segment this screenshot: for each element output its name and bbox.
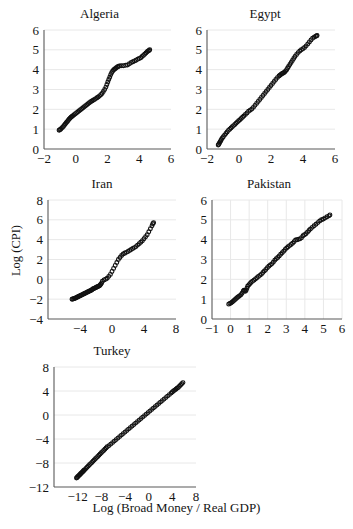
svg-text:8: 8 bbox=[173, 321, 180, 336]
x-axis-label-text: Log (Broad Money / Real GDP) bbox=[93, 500, 261, 515]
panel-title-iran: Iran bbox=[22, 176, 182, 191]
svg-text:1: 1 bbox=[33, 122, 40, 137]
svg-text:6: 6 bbox=[168, 151, 175, 166]
panel-turkey: Turkey −12−8−4048−12−8−4048 bbox=[22, 343, 202, 508]
plot-area-algeria: 0123456−20246 bbox=[22, 24, 177, 169]
svg-text:1: 1 bbox=[196, 122, 203, 137]
svg-text:5: 5 bbox=[33, 42, 40, 57]
panel-iran: Iran −4−202468−4048 bbox=[22, 176, 182, 341]
panel-egypt: Egypt 0123456−20246 bbox=[185, 6, 345, 171]
svg-text:−2: −2 bbox=[37, 151, 51, 166]
svg-text:6: 6 bbox=[37, 212, 44, 227]
svg-text:0: 0 bbox=[236, 151, 243, 166]
scatter-svg-turkey: −12−8−4048−12−8−4048 bbox=[22, 361, 202, 509]
svg-text:2: 2 bbox=[37, 252, 44, 267]
svg-text:6: 6 bbox=[332, 151, 339, 166]
scatter-svg-iran: −4−202468−4048 bbox=[22, 194, 182, 339]
svg-text:4: 4 bbox=[302, 321, 309, 336]
svg-text:0: 0 bbox=[73, 151, 80, 166]
svg-text:2: 2 bbox=[201, 272, 208, 287]
svg-text:0: 0 bbox=[227, 321, 234, 336]
svg-text:2: 2 bbox=[268, 151, 275, 166]
svg-text:2: 2 bbox=[196, 102, 203, 117]
svg-text:4: 4 bbox=[37, 232, 44, 247]
svg-text:8: 8 bbox=[43, 361, 50, 375]
svg-text:1: 1 bbox=[246, 321, 253, 336]
svg-text:6: 6 bbox=[339, 321, 346, 336]
panel-title-pakistan: Pakistan bbox=[190, 176, 348, 191]
svg-text:−4: −4 bbox=[35, 432, 49, 447]
svg-text:4: 4 bbox=[300, 151, 307, 166]
svg-text:5: 5 bbox=[196, 42, 203, 57]
svg-text:0: 0 bbox=[37, 272, 44, 287]
svg-text:2: 2 bbox=[104, 151, 111, 166]
multi-panel-scatter-figure: Algeria 0123456−20246 Egypt 0123456−2024… bbox=[0, 0, 353, 529]
svg-text:5: 5 bbox=[201, 212, 208, 227]
svg-text:6: 6 bbox=[201, 194, 208, 208]
svg-text:3: 3 bbox=[283, 321, 290, 336]
scatter-svg-pakistan: 0123456−10123456 bbox=[190, 194, 348, 339]
scatter-svg-algeria: 0123456−20246 bbox=[22, 24, 177, 169]
panel-pakistan: Pakistan 0123456−10123456 bbox=[190, 176, 348, 341]
svg-text:−2: −2 bbox=[200, 151, 214, 166]
svg-text:−4: −4 bbox=[73, 321, 87, 336]
svg-text:2: 2 bbox=[264, 321, 271, 336]
plot-area-pakistan: 0123456−10123456 bbox=[190, 194, 348, 339]
svg-text:2: 2 bbox=[33, 102, 40, 117]
x-axis-label: Log (Broad Money / Real GDP) bbox=[0, 500, 353, 516]
svg-text:4: 4 bbox=[43, 384, 50, 399]
svg-text:3: 3 bbox=[201, 252, 208, 267]
plot-area-turkey: −12−8−4048−12−8−4048 bbox=[22, 361, 202, 509]
svg-text:8: 8 bbox=[37, 194, 44, 208]
panel-title-algeria: Algeria bbox=[22, 6, 177, 21]
svg-text:−12: −12 bbox=[29, 480, 49, 495]
svg-text:−4: −4 bbox=[29, 312, 43, 327]
svg-text:4: 4 bbox=[196, 62, 203, 77]
svg-text:−8: −8 bbox=[35, 456, 49, 471]
panel-title-egypt: Egypt bbox=[185, 6, 345, 21]
panel-title-turkey: Turkey bbox=[22, 343, 202, 358]
svg-text:4: 4 bbox=[33, 62, 40, 77]
svg-text:3: 3 bbox=[33, 82, 40, 97]
svg-text:4: 4 bbox=[136, 151, 143, 166]
plot-area-egypt: 0123456−20246 bbox=[185, 24, 345, 169]
svg-text:1: 1 bbox=[201, 292, 208, 307]
scatter-svg-egypt: 0123456−20246 bbox=[185, 24, 345, 169]
svg-text:4: 4 bbox=[141, 321, 148, 336]
plot-area-iran: −4−202468−4048 bbox=[22, 194, 182, 339]
svg-text:3: 3 bbox=[196, 82, 203, 97]
svg-text:0: 0 bbox=[109, 321, 116, 336]
y-axis-label-text: Log (CPI) bbox=[9, 225, 23, 276]
svg-text:−1: −1 bbox=[205, 321, 219, 336]
svg-text:6: 6 bbox=[33, 24, 40, 38]
svg-text:4: 4 bbox=[201, 232, 208, 247]
svg-text:6: 6 bbox=[196, 24, 203, 38]
panel-algeria: Algeria 0123456−20246 bbox=[22, 6, 177, 171]
svg-text:5: 5 bbox=[320, 321, 327, 336]
svg-text:0: 0 bbox=[43, 408, 50, 423]
svg-text:−2: −2 bbox=[29, 292, 43, 307]
